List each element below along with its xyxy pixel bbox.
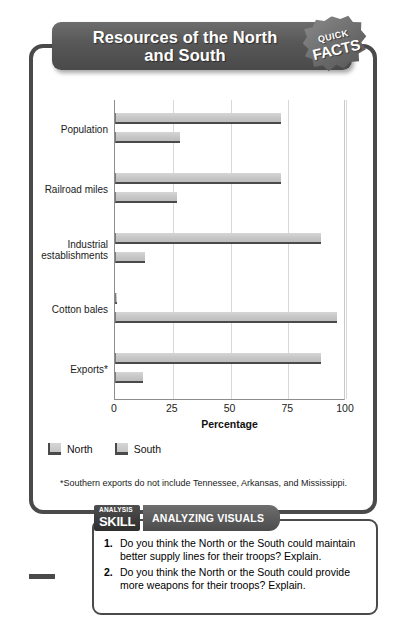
x-tick-label: 50 [224, 402, 236, 414]
plot-area [114, 100, 345, 400]
analysis-question: 1.Do you think the North or the South co… [104, 537, 368, 564]
legend-label: South [134, 443, 161, 455]
analysis-skill-tag: ANALYSIS SKILL ANALYZING VISUALS [94, 505, 280, 531]
question-text: Do you think the North or the South coul… [120, 566, 368, 593]
bar-north [115, 113, 281, 124]
legend-label: North [67, 443, 93, 455]
skill-skill-label: SKILL [99, 515, 135, 528]
category-label: Railroad miles [0, 184, 108, 195]
bar-north [115, 353, 321, 364]
bar-south [115, 192, 177, 203]
question-text: Do you think the North or the South coul… [120, 537, 368, 564]
analysis-connector-left [29, 574, 55, 579]
analysis-skill-box: 1.Do you think the North or the South co… [92, 519, 378, 615]
bar-chart: 0255075100 PopulationRailroad milesIndus… [40, 96, 366, 426]
analysis-question-list: 1.Do you think the North or the South co… [104, 537, 368, 595]
legend-item: North [48, 443, 93, 455]
x-tick-label: 0 [111, 402, 117, 414]
x-tick-label: 75 [281, 402, 293, 414]
bar-south [115, 372, 143, 383]
legend-item: South [115, 443, 161, 455]
bar-south [115, 132, 180, 143]
category-label: Cotton bales [0, 304, 108, 315]
analysis-question: 2.Do you think the North or the South co… [104, 566, 368, 593]
x-tick-label: 100 [336, 402, 354, 414]
legend-swatch-icon [115, 443, 128, 455]
question-number: 1. [104, 537, 120, 564]
x-tick-label: 25 [166, 402, 178, 414]
category-label: Industrial establishments [0, 239, 108, 261]
category-label: Population [0, 124, 108, 135]
page-title: Resources of the North and South [83, 28, 322, 65]
x-axis-title: Percentage [114, 418, 345, 430]
quick-facts-badge: QUICK FACTS [300, 12, 370, 75]
bar-north [115, 233, 321, 244]
chart-legend: NorthSouth [48, 443, 161, 455]
category-label: Exports* [0, 364, 108, 375]
question-number: 2. [104, 566, 120, 593]
gridline [346, 100, 347, 399]
skill-analysis-label: ANALYSIS [99, 507, 133, 514]
chart-footnote: *Southern exports do not include Tenness… [60, 478, 347, 488]
analyzing-visuals-label: ANALYZING VISUALS [143, 505, 280, 531]
bar-south [115, 312, 337, 323]
title-line-2: and South [144, 46, 226, 64]
bar-north [115, 293, 117, 304]
bar-north [115, 173, 281, 184]
legend-swatch-icon [48, 443, 61, 455]
bar-south [115, 252, 145, 263]
quick-facts-badge-text: QUICK FACTS [298, 10, 373, 79]
skill-badge: ANALYSIS SKILL [94, 505, 140, 531]
quick-facts-figure: Resources of the North and South QUICK F… [0, 0, 403, 636]
title-line-1: Resources of the North [93, 28, 278, 46]
